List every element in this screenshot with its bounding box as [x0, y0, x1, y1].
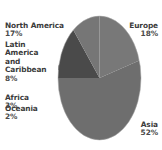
pie-label-oceania-value: 2% — [5, 113, 38, 122]
pie-label-latin-america: Latin America and Caribbean 8% — [5, 32, 47, 92]
pie-label-europe-value: 18% — [129, 30, 158, 39]
pie-label-asia: Asia 52% — [141, 112, 158, 146]
pie-label-asia-value: 52% — [141, 129, 158, 138]
pie-label-europe: Europe 18% — [129, 13, 158, 47]
pie-label-oceania: Oceania 2% — [5, 96, 38, 130]
pie-label-latin-america-text: Latin America and Caribbean — [5, 40, 47, 75]
pie-label-latin-america-value: 8% — [5, 75, 47, 84]
pie-chart-figure: North America 17% Latin America and Cari… — [0, 0, 162, 150]
